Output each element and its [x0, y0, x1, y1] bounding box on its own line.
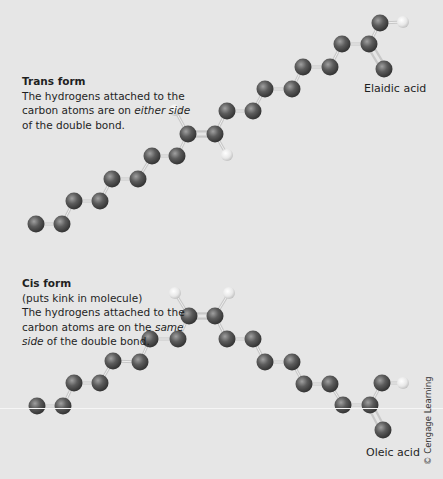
- carbon-atom: [335, 397, 352, 414]
- cis-desc-line3-post: of the double bond.: [44, 335, 150, 347]
- carbon-atom: [322, 59, 339, 76]
- carbon-atom: [322, 376, 339, 393]
- hydrogen-atom: [397, 377, 409, 389]
- cis-desc-line2-pre: carbon atoms are on the: [22, 321, 155, 333]
- carbon-atom: [219, 331, 236, 348]
- carbon-atom: [144, 148, 161, 165]
- carbon-atom: [296, 376, 313, 393]
- carbon-atom: [257, 354, 274, 371]
- carbon-atom: [207, 308, 224, 325]
- carbon-atom: [92, 375, 109, 392]
- carbon-atom: [29, 398, 46, 415]
- elaidic-acid-label: Elaidic acid: [364, 82, 426, 95]
- carbon-atom: [219, 103, 236, 120]
- hydrogen-atom: [397, 16, 409, 28]
- carbon-atom: [284, 81, 301, 98]
- cis-desc-subtitle: (puts kink in molecule): [22, 292, 142, 304]
- trans-desc-line1: The hydrogens attached to the: [22, 90, 185, 102]
- cis-desc-line1: The hydrogens attached to the: [22, 306, 185, 318]
- carbon-atom: [104, 171, 121, 188]
- carbon-atom: [257, 81, 274, 98]
- carbon-atom: [66, 375, 83, 392]
- trans-desc-line3: of the double bond.: [22, 119, 125, 131]
- oxygen-atom: [374, 375, 391, 392]
- trans-form-caption: Trans form The hydrogens attached to the…: [22, 74, 190, 132]
- hydrogen-atom: [221, 149, 233, 161]
- carbon-atom: [132, 354, 149, 371]
- carbon-atom: [66, 193, 83, 210]
- cis-desc-emphasis-side: side: [22, 335, 44, 347]
- oleic-acid-label: Oleic acid: [366, 446, 420, 459]
- carbon-atom: [55, 398, 72, 415]
- carbon-atom: [284, 354, 301, 371]
- hydrogen-atom: [223, 287, 235, 299]
- carbon-atom: [92, 193, 109, 210]
- carbon-atom: [105, 353, 122, 370]
- carbon-atom: [54, 216, 71, 233]
- oxygen-atom: [372, 15, 389, 32]
- carbon-atom: [130, 171, 147, 188]
- cis-form-caption: Cis form (puts kink in molecule) The hyd…: [22, 276, 185, 349]
- divider-line: [0, 408, 443, 409]
- cis-form-title: Cis form: [22, 276, 185, 291]
- carbon-atom: [362, 397, 379, 414]
- carbon-atom: [361, 36, 378, 53]
- carbon-atom: [245, 331, 262, 348]
- cis-desc-emphasis-same: same: [155, 321, 184, 333]
- carbon-atom: [28, 216, 45, 233]
- trans-form-title: Trans form: [22, 74, 190, 89]
- oxygen-atom: [375, 422, 392, 439]
- trans-desc-emphasis: either side: [134, 104, 190, 116]
- carbon-atom: [245, 103, 262, 120]
- carbon-atom: [169, 148, 186, 165]
- oxygen-atom: [376, 61, 393, 78]
- carbon-atom: [334, 36, 351, 53]
- copyright-credit: © Cengage Learning: [423, 376, 433, 465]
- carbon-atom: [295, 59, 312, 76]
- trans-desc-line2-pre: carbon atoms are on: [22, 104, 134, 116]
- carbon-atom: [207, 126, 224, 143]
